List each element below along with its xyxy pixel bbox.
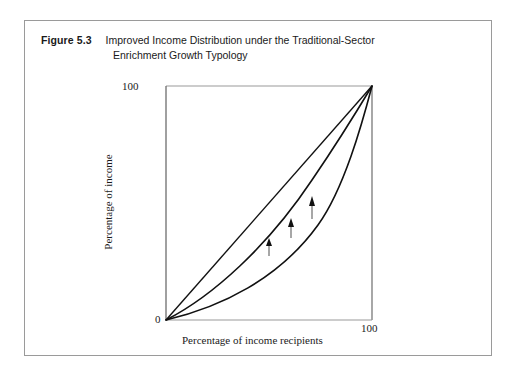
shift-arrow-2 (288, 218, 294, 238)
lorenz-curve-chart (0, 0, 515, 379)
figure-page: Figure 5.3Improved Income Distribution u… (0, 0, 515, 379)
x-axis-title: Percentage of income recipients (182, 334, 323, 346)
shift-arrow-2-head (288, 218, 294, 227)
shift-arrow-1 (266, 238, 272, 256)
x-axis-tick-100: 100 (361, 322, 378, 334)
y-axis-tick-100: 100 (122, 80, 139, 92)
shift-arrow-3-head (309, 196, 315, 206)
line-of-equality (166, 86, 372, 320)
y-axis-title: Percentage of income (102, 152, 114, 252)
origin-tick-0: 0 (155, 313, 161, 325)
plot-area: 100 0 100 Percentage of income recipient… (0, 0, 515, 379)
shift-arrow-3 (309, 196, 315, 219)
